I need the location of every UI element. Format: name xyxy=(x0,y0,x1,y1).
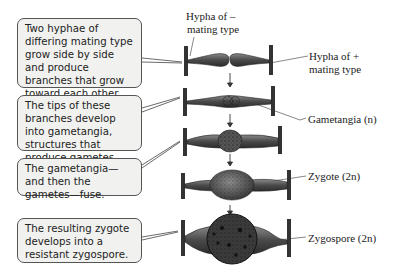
callout-leaders xyxy=(142,58,182,240)
label-gametangia: Gametangia (n) xyxy=(308,113,377,126)
zygomycete-life-cycle-diagram: Two hyphae of differing mating type grow… xyxy=(0,0,400,274)
label-hypha-minus: Hypha of – mating type xyxy=(186,10,239,35)
stage-2-gametangia xyxy=(183,86,275,116)
stage-4-zygote xyxy=(181,170,291,200)
callout-step-1-text: Two hyphae of differing mating type grow… xyxy=(25,23,133,99)
callout-step-4: The resulting zygote develops into a res… xyxy=(17,218,142,263)
callout-step-3-text: The gametangia—and then the gametes—fuse… xyxy=(25,163,119,200)
callout-step-2: The tips of these branches develop into … xyxy=(17,95,142,151)
label-zygospore: Zygospore (2n) xyxy=(308,232,376,245)
callout-step-3: The gametangia—and then the gametes—fuse… xyxy=(17,158,142,196)
label-zygote: Zygote (2n) xyxy=(308,170,360,183)
callout-step-1: Two hyphae of differing mating type grow… xyxy=(17,18,142,88)
callout-step-4-text: The resulting zygote develops into a res… xyxy=(25,223,129,260)
stage-5-zygospore xyxy=(181,214,291,264)
label-hypha-plus: Hypha of + mating type xyxy=(309,50,361,75)
callout-step-2-text: The tips of these branches develop into … xyxy=(25,100,117,163)
stage-1-hyphae xyxy=(184,45,273,76)
stage-3-fusion xyxy=(183,126,282,156)
